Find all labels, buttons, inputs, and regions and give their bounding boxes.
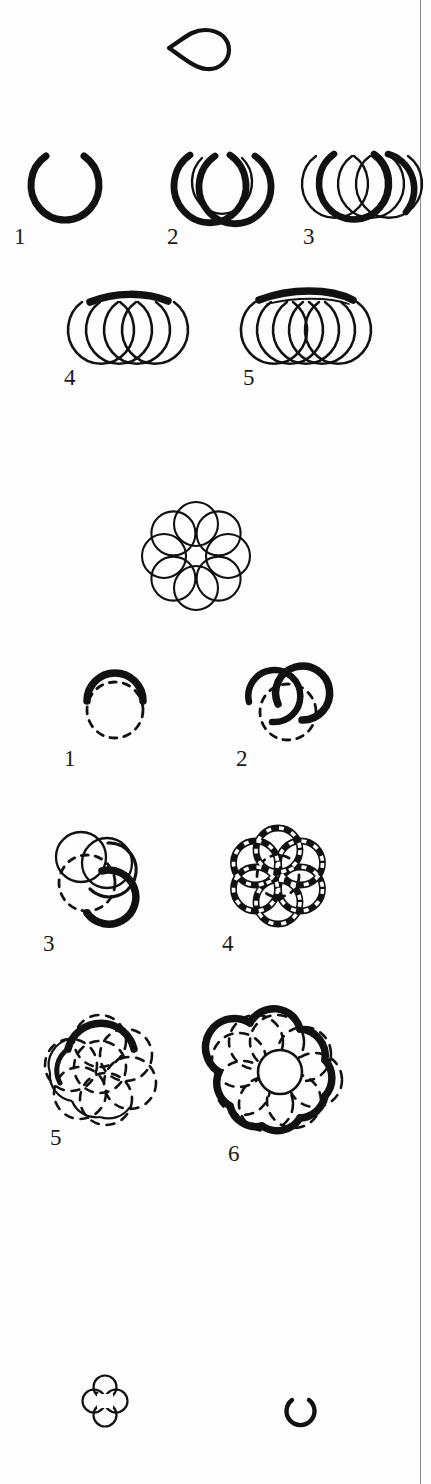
series-one-figure-3 [302, 150, 422, 230]
series-two-caption-6: 6 [228, 1142, 240, 1165]
series-one-figure-1 [20, 150, 110, 230]
series-one-caption-5: 5 [243, 366, 255, 389]
series-one-figure-4 [70, 290, 190, 370]
series-one-caption-3: 3 [303, 225, 315, 248]
series-two-figure-4 [222, 820, 334, 932]
teardrop-motif [165, 22, 235, 77]
series-one-figure-2 [168, 150, 278, 230]
series-one-caption-2: 2 [167, 225, 179, 248]
series-two-caption-5: 5 [50, 1126, 62, 1149]
small-c-arc-motif [280, 1395, 320, 1431]
series-two-caption-1: 1 [64, 747, 76, 770]
quatrefoil-motif [75, 1368, 135, 1434]
series-two-figure-5 [38, 1005, 168, 1133]
series-two-caption-2: 2 [236, 747, 248, 770]
series-two-caption-4: 4 [222, 932, 234, 955]
diagram-page: 1 2 3 4 [0, 0, 431, 1484]
series-two-figure-6 [208, 1000, 346, 1138]
series-one-caption-1: 1 [14, 225, 26, 248]
series-one-caption-4: 4 [64, 366, 76, 389]
series-two-figure-1 [70, 660, 160, 755]
series-two-caption-3: 3 [43, 932, 55, 955]
eight-lobe-rosette-outline [140, 500, 252, 612]
series-two-figure-3 [45, 825, 150, 930]
series-one-figure-5 [245, 288, 375, 370]
series-two-figure-2 [240, 660, 340, 755]
